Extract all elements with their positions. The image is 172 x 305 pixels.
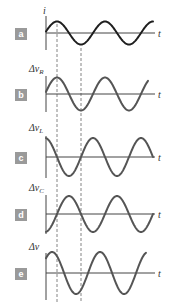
panel-e-quantity-label: Δv (28, 241, 40, 252)
panel-b-quantity-label: ΔvR (28, 63, 44, 76)
panel-badge-b: b (15, 89, 27, 101)
panel-badge-c: c (15, 152, 27, 164)
panel-badge-a: a (15, 28, 27, 40)
panel-b-time-label: t (158, 89, 161, 100)
svg-text:e: e (18, 269, 23, 279)
svg-text:c: c (18, 153, 23, 163)
panel-b: bΔvRt (15, 63, 161, 112)
panel-a: ait (15, 5, 161, 50)
waveform-panels: aitbΔvRtcΔvLtdΔvCteΔvt (15, 5, 161, 300)
svg-text:d: d (18, 210, 24, 220)
panel-a-time-label: t (158, 28, 161, 39)
panel-c-quantity-label: ΔvL (28, 122, 43, 135)
svg-text:b: b (18, 90, 24, 100)
panel-d: dΔvCt (15, 182, 161, 234)
panel-d-time-label: t (158, 209, 161, 220)
panel-c: cΔvLt (15, 122, 161, 178)
panel-e-time-label: t (158, 268, 161, 279)
phasor-waveform-diagram: aitbΔvRtcΔvLtdΔvCteΔvt (0, 0, 172, 305)
panel-e: eΔvt (15, 241, 161, 300)
panel-a-quantity-label: i (43, 5, 46, 16)
panel-badge-d: d (15, 209, 27, 221)
panel-d-quantity-label: ΔvC (28, 182, 44, 195)
panel-badge-e: e (15, 268, 27, 280)
panel-c-time-label: t (158, 152, 161, 163)
phase-reference-dashed-lines (57, 24, 81, 302)
